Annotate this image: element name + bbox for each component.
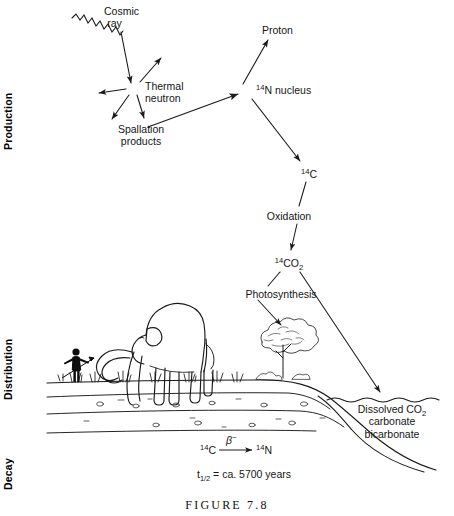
half-life-subscript: 1/2	[200, 475, 210, 482]
oxidation-arrow-upper	[299, 182, 306, 206]
label-proton: Proton	[262, 24, 293, 36]
label-oxidation: Oxidation	[267, 210, 311, 222]
section-label-production: Production	[2, 30, 14, 150]
soil-layer-3	[47, 430, 316, 433]
section-label-decay: Decay	[2, 435, 14, 490]
half-life-value: = ca. 5700 years	[210, 468, 291, 480]
label-photosynthesis: Photosynthesis	[245, 288, 316, 300]
decay-reactant: C	[208, 444, 216, 456]
hunter-silhouette	[64, 348, 89, 382]
label-c14: 14C	[301, 168, 317, 180]
figure-caption: FIGURE 7.8	[0, 498, 454, 513]
half-life-expression: t1/2 = ca. 5700 years	[197, 468, 291, 481]
dissolved-co2-subscript: 2	[422, 409, 426, 418]
co2-subscript: 2	[299, 263, 303, 272]
n14-to-c14-arrow	[252, 99, 300, 161]
photosynthesis-arrow-upper	[268, 272, 280, 286]
label-dissolved-co2: Dissolved CO2 carbonate bicarbonate	[358, 403, 426, 440]
label-spallation-products: Spallation products	[118, 123, 164, 148]
label-cosmic-ray: Cosmic ray	[104, 5, 139, 30]
ocean-surface	[327, 398, 439, 402]
label-thermal-neutron: Thermal neutron	[145, 80, 184, 105]
section-label-distribution: Distribution	[2, 295, 14, 400]
decay-product: 14N	[256, 444, 272, 456]
mammoth	[96, 303, 214, 405]
label-co2-14: 14CO2	[275, 257, 303, 269]
soil-layer-1	[47, 393, 330, 409]
figure-7-8-radiocarbon-cycle: Production Distribution Decay Cosmic ray…	[0, 0, 454, 516]
photosynthesis-arrow-lower	[258, 300, 281, 325]
tree	[261, 318, 319, 378]
decay-equation: 14C	[200, 444, 216, 456]
oxidation-arrow-lower	[291, 224, 297, 250]
soil-pebbles	[84, 399, 325, 427]
proton-arrow	[243, 40, 268, 84]
decay-particle-label: β−	[226, 434, 236, 446]
beta-superscript: −	[232, 433, 236, 442]
label-n14-nucleus: 14N nucleus	[256, 84, 311, 96]
